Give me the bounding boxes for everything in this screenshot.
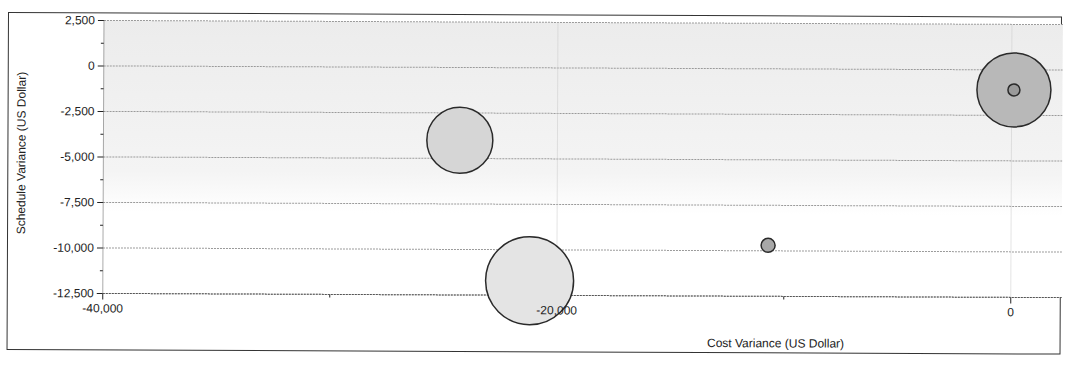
y-tick-label: 2,500 xyxy=(65,13,95,27)
bubble-bubble-5[interactable] xyxy=(1008,84,1020,96)
y-tick-label: -12,500 xyxy=(53,286,94,300)
y-axis-title: Schedule Variance (US Dollar) xyxy=(14,72,29,235)
y-tick-label: -2,500 xyxy=(61,104,95,118)
x-tick-label: -20,000 xyxy=(536,303,577,317)
y-tick-label: -5,000 xyxy=(60,150,94,164)
bubble-chart: Cost Variance (US Dollar) Schedule Varia… xyxy=(8,13,1063,356)
x-tick-label: 0 xyxy=(1007,305,1014,319)
x-axis-title: Cost Variance (US Dollar) xyxy=(707,336,844,351)
x-tick-label: -40,000 xyxy=(82,301,123,315)
y-tick-label: -7,500 xyxy=(60,195,94,209)
y-tick-label: -10,000 xyxy=(53,241,94,255)
bubble-bubble-3[interactable] xyxy=(761,238,775,252)
plot-area xyxy=(103,20,1063,297)
chart-frame: Cost Variance (US Dollar) Schedule Varia… xyxy=(7,12,1062,355)
y-tick-label: 0 xyxy=(88,59,95,73)
bubble-bubble-1[interactable] xyxy=(427,107,493,173)
